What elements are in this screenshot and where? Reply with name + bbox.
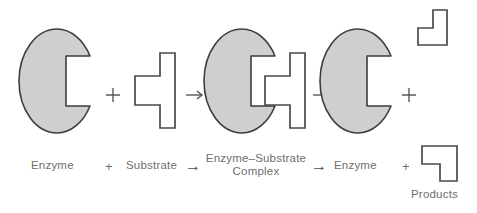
- plus-icon-1: [106, 88, 120, 102]
- enzyme-reaction-diagram: Enzyme + Substrate → Enzyme–Substrate Co…: [0, 0, 477, 213]
- product-body-bottom: [422, 146, 457, 181]
- product-shape-bottom: [422, 146, 457, 181]
- arrow-shapes-1: [186, 91, 202, 99]
- arrow-head-1: [197, 91, 202, 99]
- label-enzyme-1: Enzyme: [31, 159, 74, 171]
- diagram-shape-layer: [0, 0, 477, 213]
- plus-sign-shapes-2: [402, 88, 416, 102]
- substrate-shape-1: [135, 53, 175, 128]
- label-arrow-1: →: [185, 158, 201, 174]
- label-plus-1: +: [105, 160, 113, 173]
- product-shape-top: [418, 10, 447, 45]
- arrow-shapes-2: [313, 91, 329, 99]
- substrate-body-1: [135, 53, 175, 128]
- label-enzyme-2: Enzyme: [334, 159, 377, 171]
- product-body-top: [418, 10, 447, 45]
- complex-enzyme-body: [204, 29, 275, 133]
- complex-substrate-body: [265, 53, 305, 128]
- enzyme-body-1: [19, 29, 90, 133]
- arrow-head-2: [324, 91, 329, 99]
- enzyme-shape-1: [19, 29, 90, 133]
- label-products: Products: [411, 188, 458, 200]
- label-complex-line1: Enzyme–Substrate: [206, 152, 306, 164]
- plus-icon-2: [402, 88, 416, 102]
- label-complex-line2: Complex: [233, 165, 280, 177]
- enzyme-shape-2: [320, 29, 391, 133]
- label-arrow-2: →: [311, 158, 327, 174]
- complex-shape: [204, 29, 305, 133]
- enzyme-body-2: [320, 29, 391, 133]
- label-substrate: Substrate: [126, 159, 177, 171]
- label-plus-2: +: [402, 160, 410, 173]
- label-complex: Enzyme–Substrate Complex: [204, 152, 308, 178]
- plus-sign-shapes-1: [106, 88, 120, 102]
